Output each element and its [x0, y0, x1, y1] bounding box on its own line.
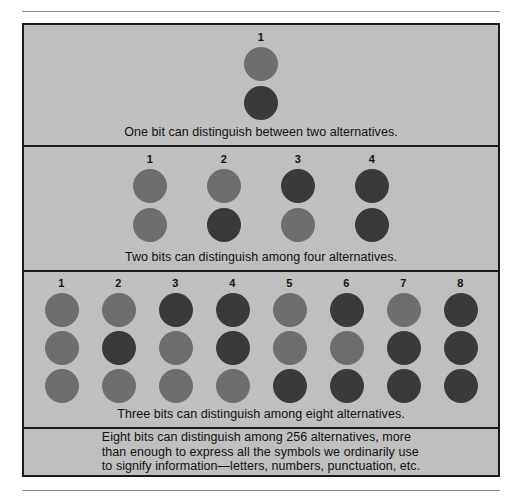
light-dot: [133, 169, 167, 203]
figure-box: 1 One bit can distinguish between two al…: [22, 23, 500, 477]
bottom-horizontal-rule: [22, 490, 500, 491]
light-dot: [387, 293, 421, 327]
dark-dot: [387, 331, 421, 365]
dark-dot: [330, 293, 364, 327]
column-label: 1: [147, 153, 153, 166]
note-text: Eight bits can distinguish among 256 alt…: [102, 430, 420, 474]
note-line: than enough to express all the symbols w…: [102, 445, 420, 460]
dark-dot: [355, 208, 389, 242]
dark-dot: [102, 331, 136, 365]
light-dot: [216, 369, 250, 403]
panel-one-bit: 1 One bit can distinguish between two al…: [24, 25, 498, 145]
light-dot: [102, 293, 136, 327]
column-label: 1: [258, 31, 264, 44]
column-label: 3: [172, 277, 178, 290]
dot-column: 2: [90, 277, 147, 407]
caption-one-bit: One bit can distinguish between two alte…: [24, 125, 498, 145]
dot-column: 3: [147, 277, 204, 407]
light-dot: [45, 369, 79, 403]
note-line: to signify information—letters, numbers,…: [102, 459, 420, 474]
dark-dot: [330, 369, 364, 403]
light-dot: [207, 169, 241, 203]
panel-three-bit: 12345678 Three bits can distinguish amon…: [24, 270, 498, 427]
caption-two-bit: Two bits can distinguish among four alte…: [24, 250, 498, 270]
dot-column: 7: [375, 277, 432, 407]
dot-grid-three-bit: 12345678: [24, 271, 498, 407]
column-label: 2: [115, 277, 121, 290]
dot-column: 4: [204, 277, 261, 407]
dot-column: 3: [261, 153, 335, 247]
light-dot: [45, 293, 79, 327]
dark-dot: [273, 369, 307, 403]
column-label: 2: [221, 153, 227, 166]
light-dot: [281, 208, 315, 242]
panel-two-bit: 1234 Two bits can distinguish among four…: [24, 145, 498, 270]
dark-dot: [355, 169, 389, 203]
dark-dot: [244, 86, 278, 120]
dark-dot: [444, 331, 478, 365]
caption-three-bit: Three bits can distinguish among eight a…: [24, 407, 498, 427]
light-dot: [159, 369, 193, 403]
column-label: 4: [229, 277, 235, 290]
dot-column: 1: [33, 277, 90, 407]
dot-column: 1: [113, 153, 187, 247]
dark-dot: [281, 169, 315, 203]
dot-column: 4: [335, 153, 409, 247]
column-label: 8: [457, 277, 463, 290]
dark-dot: [216, 293, 250, 327]
dark-dot: [216, 331, 250, 365]
light-dot: [159, 331, 193, 365]
dot-grid-two-bit: 1234: [24, 147, 498, 250]
dot-column: 2: [187, 153, 261, 247]
column-label: 6: [343, 277, 349, 290]
dark-dot: [444, 369, 478, 403]
dot-column: 8: [432, 277, 489, 407]
column-label: 5: [286, 277, 292, 290]
top-horizontal-rule: [22, 11, 500, 12]
dot-grid-one-bit: 1: [24, 25, 498, 125]
dark-dot: [207, 208, 241, 242]
light-dot: [244, 47, 278, 81]
column-label: 1: [58, 277, 64, 290]
light-dot: [133, 208, 167, 242]
column-label: 7: [400, 277, 406, 290]
light-dot: [102, 369, 136, 403]
light-dot: [273, 293, 307, 327]
column-label: 3: [295, 153, 301, 166]
light-dot: [330, 331, 364, 365]
light-dot: [273, 331, 307, 365]
dot-column: 5: [261, 277, 318, 407]
dark-dot: [444, 293, 478, 327]
note-line: Eight bits can distinguish among 256 alt…: [102, 430, 420, 445]
light-dot: [45, 331, 79, 365]
panel-note: Eight bits can distinguish among 256 alt…: [24, 427, 498, 475]
dark-dot: [159, 293, 193, 327]
column-label: 4: [369, 153, 375, 166]
dot-column: 6: [318, 277, 375, 407]
dot-column: 1: [221, 31, 301, 125]
dark-dot: [387, 369, 421, 403]
